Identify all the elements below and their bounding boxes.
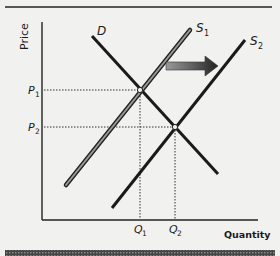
price-label-1: P 1 bbox=[28, 84, 40, 99]
svg-text:2: 2 bbox=[35, 127, 40, 136]
shift-right-arrow-icon bbox=[166, 56, 218, 76]
svg-text:S: S bbox=[196, 21, 204, 35]
quantity-label-1: Q 1 bbox=[134, 223, 147, 238]
svg-text:1: 1 bbox=[204, 29, 209, 38]
y-axis-label: Price bbox=[18, 23, 31, 50]
svg-text:P: P bbox=[28, 84, 35, 97]
equilibrium-point-1 bbox=[137, 87, 142, 92]
equilibrium-point-2 bbox=[172, 124, 177, 129]
supply2-label: S 2 bbox=[250, 34, 263, 51]
svg-text:2: 2 bbox=[177, 229, 182, 238]
demand-label: D bbox=[97, 24, 106, 38]
supply1-label: S 1 bbox=[196, 21, 209, 38]
diagram-canvas: Price Quantity D S 1 S 2 P 1 P 2 Q 1 Q 2 bbox=[0, 0, 280, 256]
price-label-2: P 2 bbox=[28, 121, 40, 136]
svg-text:S: S bbox=[250, 34, 258, 48]
supply-curve-1 bbox=[66, 30, 190, 185]
svg-text:2: 2 bbox=[258, 42, 263, 51]
svg-text:1: 1 bbox=[35, 90, 40, 99]
bottom-band bbox=[5, 250, 275, 256]
svg-text:1: 1 bbox=[142, 229, 147, 238]
x-axis-label: Quantity bbox=[224, 229, 271, 240]
svg-text:P: P bbox=[28, 121, 35, 134]
quantity-label-2: Q 2 bbox=[169, 223, 182, 238]
supply-demand-diagram: Price Quantity D S 1 S 2 P 1 P 2 Q 1 Q 2 bbox=[0, 0, 280, 256]
